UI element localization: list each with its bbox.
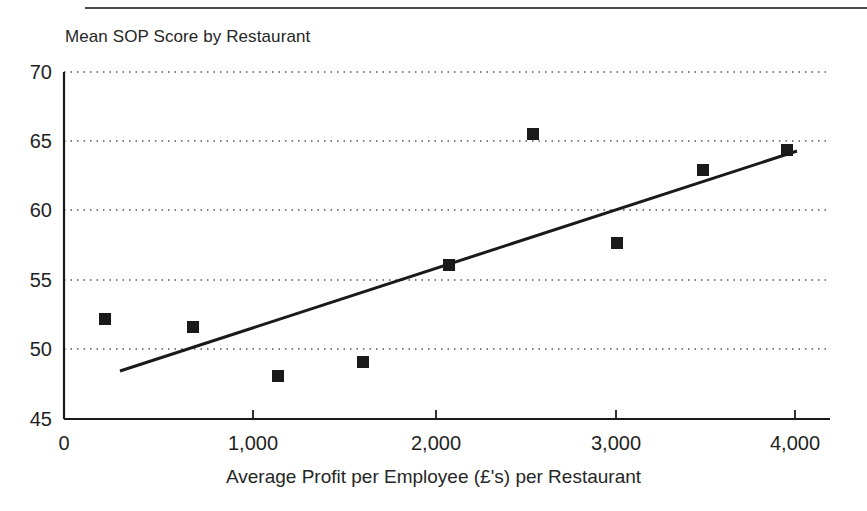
x-tick-label-2000: 2,000 — [411, 432, 461, 455]
trend-line — [120, 151, 797, 371]
y-tick-label-55: 55 — [10, 269, 52, 292]
x-tick-label-1000: 1,000 — [228, 432, 278, 455]
chart-figure: Mean SOP Score by Restaurant — [0, 0, 867, 511]
data-point-marker — [99, 313, 111, 325]
y-tick-label-50: 50 — [10, 338, 52, 361]
data-point-marker — [527, 128, 539, 140]
data-point-marker — [781, 144, 793, 156]
y-tick-label-45: 45 — [10, 408, 52, 431]
data-point-marker — [357, 356, 369, 368]
x-axis-title: Average Profit per Employee (£'s) per Re… — [0, 466, 867, 488]
data-point-marker — [443, 259, 455, 271]
y-tick-label-60: 60 — [10, 199, 52, 222]
data-point-marker — [697, 164, 709, 176]
x-tick-label-0: 0 — [58, 432, 69, 455]
x-axis-ticks — [64, 410, 795, 419]
x-tick-label-4000: 4,000 — [770, 432, 820, 455]
gridlines — [64, 72, 830, 349]
axis-spines — [64, 72, 830, 419]
x-tick-label-3000: 3,000 — [591, 432, 641, 455]
data-point-marker — [272, 370, 284, 382]
data-point-marker — [187, 321, 199, 333]
data-point-marker — [611, 237, 623, 249]
y-tick-label-65: 65 — [10, 130, 52, 153]
y-tick-label-70: 70 — [10, 61, 52, 84]
